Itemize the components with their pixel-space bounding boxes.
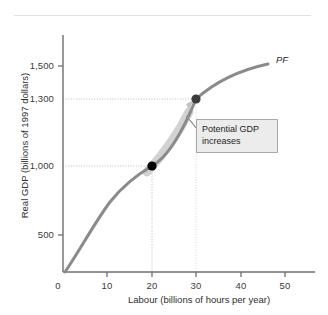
chart-plot-area bbox=[0, 0, 328, 315]
x-tick-label-30: 30 bbox=[186, 280, 206, 291]
y-axis-ticks bbox=[58, 66, 63, 235]
y-tick-label-500: 500 bbox=[18, 229, 54, 240]
figure-container: 1,500 1,300 1,000 500 0 10 20 30 40 50 R… bbox=[0, 0, 328, 315]
x-tick-label-10: 10 bbox=[97, 280, 117, 291]
series-label-pf: PF bbox=[276, 54, 288, 65]
y-axis-label: Real GDP (billions of 1997 dollars) bbox=[19, 61, 30, 231]
data-point-new bbox=[191, 94, 200, 103]
annotation-line-2: increases bbox=[202, 136, 272, 148]
annotation-callout: Potential GDP increases bbox=[196, 119, 278, 153]
production-function-curve bbox=[65, 64, 268, 272]
x-axis-label: Labour (billions of hours per year) bbox=[128, 294, 270, 305]
data-point-initial bbox=[147, 161, 156, 170]
x-tick-label-40: 40 bbox=[231, 280, 251, 291]
x-tick-label-50: 50 bbox=[275, 280, 295, 291]
annotation-line-1: Potential GDP bbox=[202, 124, 272, 136]
x-axis-ticks bbox=[107, 272, 285, 277]
x-tick-label-20: 20 bbox=[142, 280, 162, 291]
x-tick-label-0: 0 bbox=[48, 280, 68, 291]
